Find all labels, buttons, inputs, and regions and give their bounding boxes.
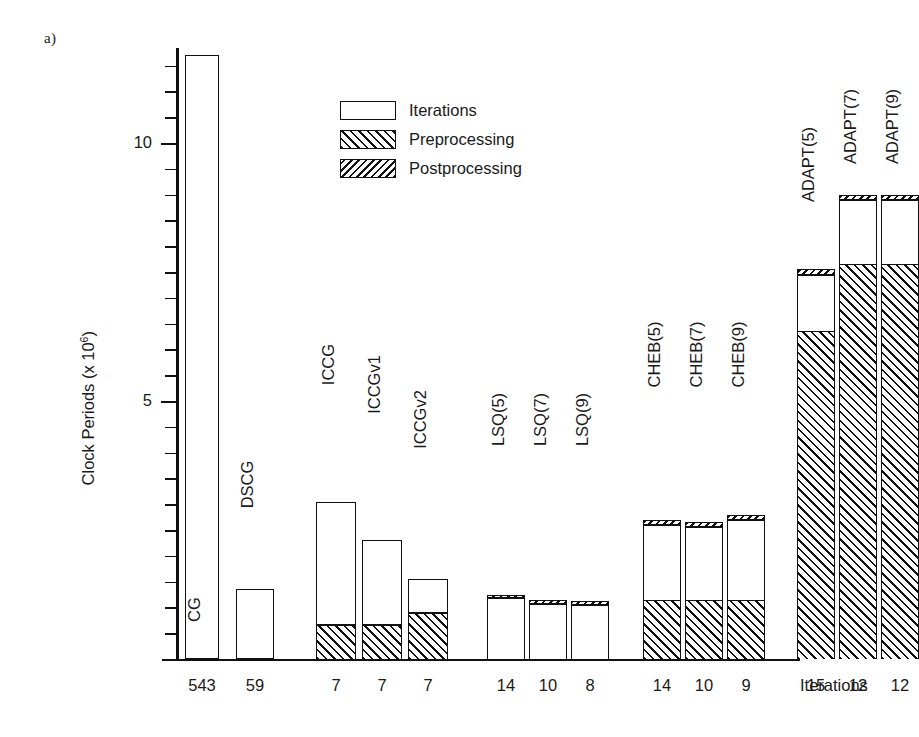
y-axis-minor-tick	[165, 530, 176, 532]
bar-segment-iterations	[408, 579, 448, 613]
bar-segment-preprocessing	[797, 331, 835, 659]
x-axis-iteration-count: 10	[539, 676, 557, 695]
bar-segment-iterations	[881, 200, 919, 265]
x-axis-iteration-count: 14	[497, 676, 515, 695]
y-axis-minor-tick	[165, 607, 176, 609]
y-axis-minor-tick	[165, 504, 176, 506]
x-axis-iteration-count: 7	[377, 676, 386, 695]
legend-swatch-iterations	[340, 101, 396, 120]
y-axis-minor-tick	[165, 66, 176, 68]
bar-label-adapt5: ADAPT(5)	[800, 127, 817, 202]
bar-segment-preprocessing	[316, 625, 356, 659]
x-axis-line	[162, 659, 800, 661]
bar-segment-iterations	[727, 520, 765, 600]
y-axis-minor-tick	[165, 246, 176, 248]
bar	[529, 600, 567, 659]
legend-swatch-postprocessing	[340, 159, 396, 178]
y-axis-minor-tick	[165, 117, 176, 119]
legend-swatch-preprocessing	[340, 130, 396, 149]
y-axis-major-tick	[161, 143, 176, 145]
y-axis-minor-tick	[165, 556, 176, 558]
legend-item: Postprocessing	[340, 156, 522, 181]
bar-segment-preprocessing	[408, 613, 448, 659]
y-axis-minor-tick	[165, 633, 176, 635]
y-axis-minor-tick	[165, 195, 176, 197]
y-axis-minor-tick	[165, 453, 176, 455]
bar-label-adapt9: ADAPT(9)	[884, 89, 901, 164]
legend-label: Iterations	[409, 102, 477, 119]
x-axis-iteration-count: 7	[331, 676, 340, 695]
x-axis-iteration-count: 9	[741, 676, 750, 695]
bar-label-iccgv1: ICCGv1	[366, 355, 383, 414]
bar-segment-iterations	[185, 55, 219, 659]
y-axis-minor-tick	[165, 324, 176, 326]
bar	[839, 195, 877, 659]
y-axis-minor-tick	[165, 478, 176, 480]
y-axis-tick-label: 10	[134, 133, 152, 152]
bar-segment-preprocessing	[727, 600, 765, 659]
bar	[362, 540, 402, 659]
bar	[571, 601, 609, 659]
y-axis-minor-tick	[165, 91, 176, 93]
legend: IterationsPreprocessingPostprocessing	[340, 98, 522, 185]
bar-label-iccg: ICCG	[320, 344, 337, 385]
bar	[727, 515, 765, 659]
bar-label-cheb5: CHEB(5)	[646, 321, 663, 387]
y-axis-minor-tick	[165, 427, 176, 429]
y-axis-minor-tick	[165, 375, 176, 377]
bar-segment-iterations	[362, 540, 402, 625]
bar-label-dscg: DSCG	[239, 461, 256, 509]
y-axis-tick-label: 5	[143, 391, 152, 410]
bar	[236, 589, 274, 659]
bar-segment-iterations	[316, 502, 356, 626]
bar-segment-iterations	[487, 598, 525, 659]
bar-segment-iterations	[529, 604, 567, 659]
bar-segment-preprocessing	[362, 625, 402, 659]
bar	[881, 195, 919, 659]
bar-segment-iterations	[236, 589, 274, 659]
bar-label-lsq5: LSQ(5)	[490, 393, 507, 446]
x-axis-caption: Iterations	[800, 676, 868, 695]
x-axis-iteration-count: 7	[423, 676, 432, 695]
y-axis-title: Clock Periods (x 106)	[78, 258, 99, 558]
y-axis-title-exponent: 6	[78, 337, 90, 343]
bar-label-cg: CG	[186, 597, 203, 622]
y-axis-minor-tick	[165, 582, 176, 584]
legend-label: Postprocessing	[409, 160, 522, 177]
bar	[408, 579, 448, 659]
y-axis-line	[176, 48, 179, 660]
bar-label-adapt7: ADAPT(7)	[842, 89, 859, 164]
bar	[487, 595, 525, 660]
y-axis-minor-tick	[165, 298, 176, 300]
panel-tag: a)	[44, 30, 56, 47]
y-axis-minor-tick	[165, 220, 176, 222]
legend-label: Preprocessing	[409, 131, 514, 148]
bar-segment-iterations	[839, 200, 877, 265]
bar-segment-preprocessing	[881, 264, 919, 659]
bar	[797, 269, 835, 659]
y-axis-title-tail: )	[79, 331, 97, 337]
bar-segment-preprocessing	[685, 600, 723, 659]
bar-label-lsq7: LSQ(7)	[532, 393, 549, 446]
bar-label-cheb7: CHEB(7)	[688, 321, 705, 387]
bar	[643, 520, 681, 659]
bar-segment-preprocessing	[839, 264, 877, 659]
bar	[316, 502, 356, 659]
bar	[185, 55, 219, 659]
y-axis-minor-tick	[165, 272, 176, 274]
y-axis-minor-tick	[165, 349, 176, 351]
bar-segment-iterations	[685, 527, 723, 599]
y-axis-minor-tick	[165, 169, 176, 171]
bar-segment-iterations	[571, 605, 609, 659]
bar-segment-iterations	[643, 525, 681, 600]
legend-item: Preprocessing	[340, 127, 522, 152]
x-axis-iteration-count: 10	[695, 676, 713, 695]
x-axis-iteration-count: 543	[188, 676, 216, 695]
bar-label-iccgv2: ICCGv2	[412, 390, 429, 449]
x-axis-iteration-count: 8	[585, 676, 594, 695]
bar-segment-preprocessing	[643, 600, 681, 659]
y-axis-title-base: Clock Periods (x 10	[79, 342, 97, 485]
bar-label-lsq9: LSQ(9)	[574, 393, 591, 446]
bar-segment-iterations	[797, 275, 835, 332]
